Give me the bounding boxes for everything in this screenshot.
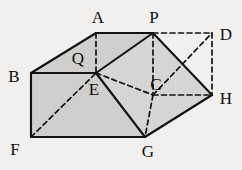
solid-faces [31, 33, 212, 137]
vertex-label-Q: Q [72, 50, 84, 67]
vertex-label-A: A [92, 9, 104, 26]
vertex-label-C: C [150, 76, 161, 93]
vertex-label-D: D [220, 26, 232, 43]
vertex-label-B: B [8, 68, 19, 85]
vertex-label-H: H [220, 90, 232, 107]
vertex-label-P: P [149, 9, 158, 26]
geometry-canvas [0, 0, 242, 170]
vertex-label-E: E [89, 81, 99, 98]
vertex-label-F: F [10, 141, 19, 158]
vertex-label-G: G [142, 143, 154, 160]
geometry-figure: APDBQECHFG [0, 0, 242, 170]
